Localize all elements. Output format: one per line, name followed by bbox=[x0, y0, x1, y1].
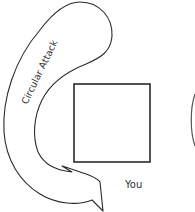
arrow-label: Circular Attack bbox=[19, 38, 60, 106]
diagram-canvas: Circular Attack You bbox=[0, 0, 195, 212]
you-box bbox=[74, 84, 150, 162]
circular-attack-arrow bbox=[4, 2, 112, 211]
partial-circle-edge bbox=[191, 94, 195, 146]
you-label: You bbox=[124, 179, 142, 190]
